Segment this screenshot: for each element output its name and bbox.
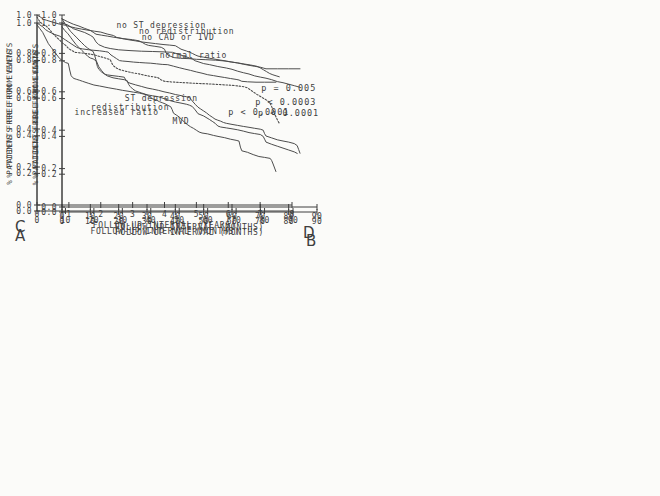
x-tick-label: 6	[226, 210, 231, 219]
panel-letter: D	[303, 224, 315, 242]
x-tick-label: 2	[98, 210, 103, 219]
survival-curves-figure: 01020304050607080900.00.20.40.60.81.0FOL…	[0, 0, 660, 496]
x-tick-label: 8	[289, 210, 294, 219]
x-tick-label: 7	[258, 210, 263, 219]
y-axis-title: % PATIENTS FREE FROM EVENTS	[5, 42, 14, 177]
x-tick-label: 3	[130, 210, 135, 219]
y-tick-label: 0.8	[16, 49, 32, 58]
y-tick-label: 0.6	[16, 87, 32, 96]
x-tick-label: 0	[34, 210, 39, 219]
x-tick-label: 5	[194, 210, 199, 219]
y-tick-label: 0.2	[16, 163, 32, 172]
series-line-st-depression	[37, 17, 279, 123]
x-axis-title: FOLLOW-UP INTERVAL (YEARS)	[93, 221, 236, 230]
series-label-st-depression: ST depression	[125, 94, 198, 103]
y-tick-label: 0.0	[16, 201, 32, 210]
y-tick-label: 1.0	[16, 11, 32, 20]
panel-d: 0123456780.00.20.40.60.81.0FOLLOW-UP INT…	[0, 0, 330, 248]
p-value-label: p = 0.005	[261, 83, 316, 93]
x-tick-label: 4	[162, 210, 167, 219]
y-tick-label: 0.4	[16, 125, 32, 134]
series-label-no-st-depression: no ST depression	[116, 21, 206, 30]
km-chart-panel-d: 0123456780.00.20.40.60.81.0FOLLOW-UP INT…	[0, 0, 330, 248]
x-tick-label: 1	[66, 210, 71, 219]
